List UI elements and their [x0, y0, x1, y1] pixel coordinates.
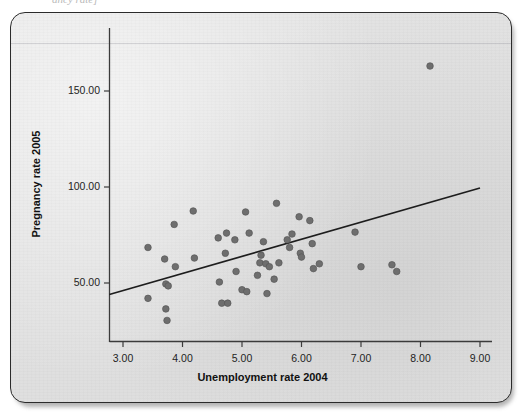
y-tick-label: 100.00	[52, 180, 100, 192]
x-tick-label: 5.00	[212, 352, 272, 364]
scan-artifact-line	[11, 43, 511, 44]
x-tick-label: 6.00	[272, 352, 332, 364]
x-axis-title: Unemployment rate 2004	[0, 371, 525, 383]
y-tick-label: 50.00	[52, 276, 100, 288]
x-tick-label: 8.00	[391, 352, 451, 364]
clipped-caption-artifact: ancy rate]	[0, 0, 525, 10]
y-axis-title: Pregnancy rate 2005	[30, 104, 42, 264]
x-tick-label: 9.00	[450, 352, 510, 364]
figure-page: ancy rate] 3.004.005.006.007.008.009.00 …	[0, 0, 525, 412]
x-tick-label: 3.00	[93, 352, 153, 364]
y-tick-label: 150.00	[52, 84, 100, 96]
clipped-caption-text: ancy rate]	[52, 0, 98, 5]
x-tick-label: 4.00	[153, 352, 213, 364]
x-tick-label: 7.00	[331, 352, 391, 364]
figure-card	[10, 12, 512, 403]
